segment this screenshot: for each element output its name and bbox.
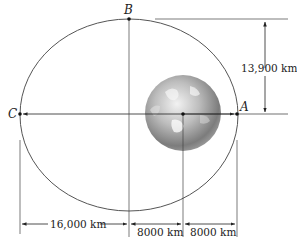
point-a-label: A [239, 100, 249, 114]
orbit-diagram: 13,900 km 16,000 km 8000 km 8000 km B C … [0, 0, 297, 247]
dim-8000-mid-label: 8000 km [137, 226, 183, 238]
point-c-label: C [8, 107, 17, 121]
dim-8000-right-label: 8000 km [190, 226, 236, 238]
point-a-dot [235, 112, 239, 116]
earth-center-dot [181, 112, 185, 116]
point-c-dot [18, 112, 22, 116]
point-b-dot [127, 17, 131, 21]
dim-16000-label: 16,000 km [50, 218, 106, 230]
point-b-label: B [123, 3, 133, 17]
vertical-dimension-label: 13,900 km [241, 62, 297, 74]
